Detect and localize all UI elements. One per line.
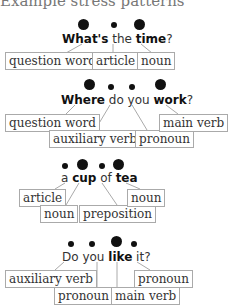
label-pronoun: pronoun <box>54 287 113 305</box>
stress-dot-small <box>129 84 135 90</box>
label-noun: noun <box>40 205 78 223</box>
label-noun: noun <box>127 189 165 207</box>
label-auxiliary-verb: auxiliary verb <box>5 270 97 288</box>
label-auxiliary-verb: auxiliary verb <box>49 130 141 148</box>
label-pronoun: pronoun <box>134 270 193 288</box>
label-question-word: question word <box>5 52 100 70</box>
label-main-verb: main verb <box>111 287 180 305</box>
stress-dot-large <box>134 19 145 30</box>
stress-dot-small <box>99 163 105 169</box>
stress-dot-large <box>155 79 166 90</box>
stress-dot-small <box>131 241 137 247</box>
stress-dot-small <box>111 22 117 28</box>
stress-dot-large <box>84 79 95 90</box>
sentence: Where do you work? <box>61 93 193 107</box>
label-main-verb: main verb <box>159 114 228 132</box>
label-noun: noun <box>137 52 175 70</box>
label-article: article <box>92 52 139 70</box>
stress-dot-small <box>68 241 74 247</box>
stress-dot-small <box>89 241 95 247</box>
sentence: What's the time? <box>62 32 173 46</box>
sentence: Do you like it? <box>62 250 151 264</box>
stress-dot-large <box>77 159 88 170</box>
sentence: a cup of tea <box>61 171 138 185</box>
label-preposition: preposition <box>79 205 156 223</box>
stress-dot-large <box>78 19 89 30</box>
stress-dot-small <box>62 163 68 169</box>
stress-dot-large <box>113 159 124 170</box>
label-pronoun: pronoun <box>135 130 194 148</box>
stress-dot-large <box>111 236 122 247</box>
stress-dot-small <box>108 84 114 90</box>
